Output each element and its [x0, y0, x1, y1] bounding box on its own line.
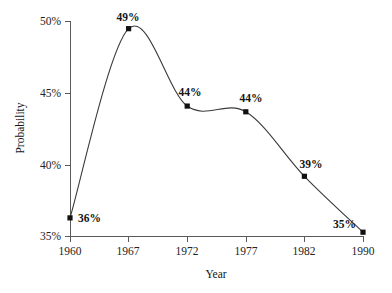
- data-point-1972[interactable]: [185, 103, 190, 108]
- data-point-1960[interactable]: [67, 215, 72, 220]
- x-tick-label-1977: 1977: [235, 245, 258, 257]
- y-tick-label-45: 45%: [40, 87, 62, 99]
- chart-container: 50% 45% 40% 35% 1960 1967 1972 1977 1982…: [0, 0, 392, 293]
- data-label-1967: 49%: [117, 11, 140, 23]
- x-axis-title: Year: [205, 268, 226, 280]
- y-tick-label-40: 40%: [40, 159, 62, 171]
- y-tick-label-50: 50%: [40, 15, 62, 27]
- y-axis-title: Probability: [14, 102, 27, 153]
- x-tick-label-1960: 1960: [59, 245, 82, 257]
- data-point-1990[interactable]: [360, 230, 365, 235]
- x-tick-label-1990: 1990: [352, 245, 375, 257]
- data-label-1960: 36%: [78, 212, 101, 224]
- data-label-1982: 39%: [300, 158, 323, 170]
- data-point-1967[interactable]: [126, 26, 131, 31]
- data-point-1977[interactable]: [243, 109, 248, 114]
- data-point-1982[interactable]: [302, 174, 307, 179]
- x-tick-label-1982: 1982: [293, 245, 316, 257]
- y-tick-label-35: 35%: [40, 230, 62, 242]
- x-tick-label-1967: 1967: [117, 245, 140, 257]
- data-label-1990: 35%: [333, 218, 356, 230]
- data-label-1977: 44%: [240, 92, 263, 104]
- x-tick-label-1972: 1972: [176, 245, 199, 257]
- data-label-1972: 44%: [179, 86, 202, 98]
- line-chart: 50% 45% 40% 35% 1960 1967 1972 1977 1982…: [0, 0, 392, 293]
